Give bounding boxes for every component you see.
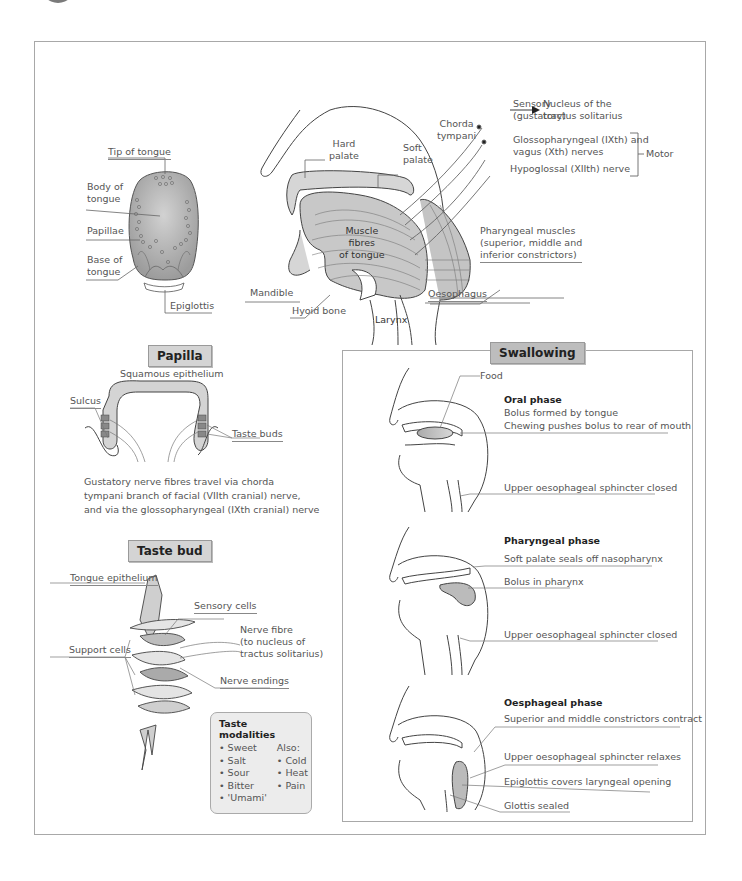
label-tip-of-tongue: Tip of tongue [108,146,171,160]
pharyngeal-phase-sphincter: Upper oesophageal sphincter closed [504,629,677,641]
pharyngeal-phase-line-2: Bolus in pharynx [504,576,584,588]
taste-bitter: • Bitter [219,780,267,793]
taste-salt: • Salt [219,755,267,768]
oral-phase-line-1: Bolus formed by tongue [504,407,618,419]
taste-cold: • Cold [277,755,308,768]
label-tongue-epithelium: Tongue epithelium [70,572,158,586]
papilla-illustration [70,381,260,462]
label-epiglottis: Epiglottis [170,300,214,312]
label-sulcus: Sulcus [70,395,101,409]
swallowing-title: Swallowing [490,342,585,364]
label-mandible: Mandible [250,287,293,299]
papilla-caption: Gustatory nerve fibres travel via chorda… [84,475,319,517]
label-larynx: Larynx [375,314,407,326]
oesophageal-phase-line-3: Epiglottis covers laryngeal opening [504,776,671,788]
label-glossopharyngeal-vagus: Glossopharyngeal (IXth) and vagus (Xth) … [513,134,649,158]
label-taste-buds: Taste buds [232,428,283,442]
taste-heat: • Heat [277,767,308,780]
label-soft-palate: Soft palate [403,142,433,166]
label-chorda-tympani: Chorda tympani [437,118,476,142]
pharyngeal-phase-line-1: Soft palate seals off nasopharynx [504,553,663,565]
pharyngeal-phase-title: Pharyngeal phase [504,535,600,546]
label-nerve-endings: Nerve endings [220,675,289,689]
taste-modalities-box: Taste modalities • Sweet • Salt • Sour •… [210,712,312,814]
label-papillae: Papillae [87,225,124,237]
oral-phase-title: Oral phase [504,394,562,405]
taste-also-label: Also: [277,742,308,755]
oesophageal-phase-line-4: Glottis sealed [504,800,569,812]
oesophageal-phase-line-2: Upper oesophageal sphincter relaxes [504,751,681,763]
label-squamous-epithelium: Squamous epithelium [120,368,224,380]
label-food: Food [480,370,503,382]
label-hard-palate: Hard palate [329,138,359,162]
taste-pain: • Pain [277,780,308,793]
taste-bud-title: Taste bud [128,540,212,562]
taste-modalities-title: Taste modalities [219,718,303,740]
label-muscle-fibres: Muscle fibres of tongue [339,225,385,261]
label-motor: Motor [646,148,673,160]
label-oesophagus: Oesophagus [428,288,487,302]
papilla-title: Papilla [148,345,212,367]
taste-sweet: • Sweet [219,742,267,755]
oesophageal-phase-title: Oesphageal phase [504,697,602,708]
label-sensory-cells: Sensory cells [194,600,257,614]
oesophageal-phase-line-1: Superior and middle constrictors contrac… [504,713,702,725]
taste-also-list: Also: • Cold • Heat • Pain [277,742,308,805]
label-nucleus-tractus-solitarius: Nucleus of the tractus solitarius [543,98,623,122]
label-support-cells: Support cells [69,644,131,658]
label-hyoid-bone: Hyoid bone [292,305,346,317]
oral-phase-line-2: Chewing pushes bolus to rear of mouth [504,420,691,432]
label-hypoglossal: Hypoglossal (XIIth) nerve [510,163,630,175]
oral-phase-sphincter: Upper oesophageal sphincter closed [504,482,677,494]
label-nerve-fibre: Nerve fibre (to nucleus of tractus solit… [240,624,323,660]
taste-sour: • Sour [219,767,267,780]
taste-umami: • 'Umami' [219,792,267,805]
label-pharyngeal-muscles: Pharyngeal muscles (superior, middle and… [480,225,582,263]
label-body-of-tongue: Body of tongue [87,181,123,205]
taste-primary-list: • Sweet • Salt • Sour • Bitter • 'Umami' [219,742,267,805]
label-base-of-tongue: Base of tongue [87,254,122,278]
